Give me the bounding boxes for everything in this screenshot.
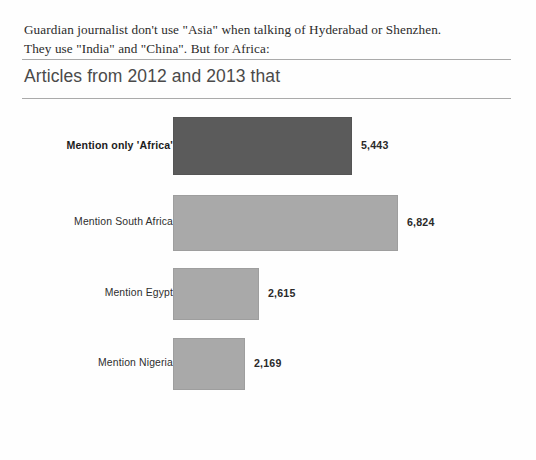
bar-row: Mention only 'Africa'5,443 bbox=[0, 117, 536, 175]
bar-fill bbox=[173, 117, 352, 175]
chart-title: Articles from 2012 and 2013 that bbox=[24, 66, 280, 87]
bar-fill bbox=[173, 268, 259, 320]
bar-category-label: Mention Nigeria bbox=[98, 357, 173, 368]
bar-value-label: 2,615 bbox=[268, 287, 296, 299]
chart-rule-bottom bbox=[22, 98, 511, 99]
bar-row: Mention South Africa6,824 bbox=[0, 195, 536, 251]
bar-category-label: Mention South Africa bbox=[74, 216, 173, 227]
chart-rule-top bbox=[22, 59, 511, 60]
chart-card: Articles from 2012 and 2013 that Mention… bbox=[0, 50, 536, 460]
bar[interactable] bbox=[173, 268, 259, 320]
bar-category-label: Mention Egypt bbox=[105, 287, 173, 298]
bar[interactable] bbox=[173, 195, 398, 251]
bar[interactable] bbox=[173, 117, 352, 175]
intro-line-1: Guardian journalist don't use "Asia" whe… bbox=[24, 20, 514, 39]
bar-fill bbox=[173, 338, 245, 390]
bar-category-label: Mention only 'Africa' bbox=[67, 139, 173, 151]
bar-chart: Mention only 'Africa'5,443Mention South … bbox=[0, 105, 536, 405]
bar[interactable] bbox=[173, 338, 245, 390]
bar-row: Mention Egypt2,615 bbox=[0, 268, 536, 320]
infographic-page: Guardian journalist don't use "Asia" whe… bbox=[0, 0, 536, 460]
bar-row: Mention Nigeria2,169 bbox=[0, 338, 536, 390]
bar-value-label: 6,824 bbox=[407, 216, 435, 228]
bar-value-label: 5,443 bbox=[361, 139, 389, 151]
bar-value-label: 2,169 bbox=[254, 357, 282, 369]
bar-fill bbox=[173, 195, 398, 251]
